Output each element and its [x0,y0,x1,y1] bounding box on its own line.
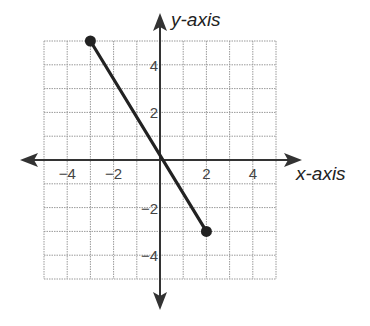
x-tick-label: −4 [59,165,76,182]
y-tick-label: 2 [150,104,158,121]
endpoint-dot [201,226,212,237]
y-tick-label: 4 [150,57,158,74]
x-tick-label: 4 [249,165,257,182]
x-axis-label: x-axis [295,163,346,184]
y-tick-label: −2 [141,200,158,217]
x-tick-label: −2 [105,165,122,182]
x-tick-label: 2 [202,165,210,182]
y-tick-label: −4 [141,247,158,264]
y-axis-label: y-axis [169,9,221,30]
coordinate-plane: −4−22442−2−4 y-axis x-axis [0,0,370,326]
endpoint-dot [85,36,96,47]
axes [20,13,302,310]
